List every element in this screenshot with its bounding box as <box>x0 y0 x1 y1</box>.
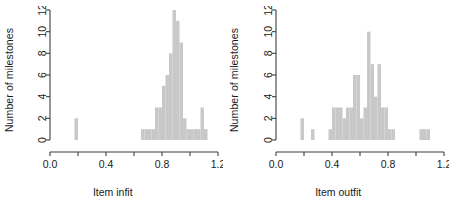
y-axis-tick-label: 0 <box>262 137 274 143</box>
histogram-bar <box>75 118 79 140</box>
histogram-bar <box>190 129 194 140</box>
histogram-bar <box>349 108 353 141</box>
x-axis-right: 0.00.40.81.2 <box>268 152 448 170</box>
y-axis-tick-label: 2 <box>262 115 274 121</box>
histogram-bar <box>197 129 201 140</box>
histogram-bar <box>339 108 343 141</box>
panel-item-infit: Number of milestones 0246810120.00.40.81… <box>0 0 226 214</box>
histogram-bar <box>145 129 149 140</box>
y-axis-right: 024681012 <box>262 6 276 143</box>
histogram-bar <box>391 129 395 140</box>
histogram-bar <box>356 75 360 140</box>
histogram-bar <box>187 129 191 140</box>
plot-svg-right: 0246810120.00.40.81.2 <box>244 6 449 181</box>
x-axis-tick-label: 1.2 <box>211 158 223 170</box>
y-axis-title-right-text: Number of milestones <box>229 28 241 132</box>
histogram-bar <box>342 118 346 140</box>
plot-area-right: 0246810120.00.40.81.2 <box>244 6 449 181</box>
histogram-bars-left <box>75 10 208 140</box>
y-axis-tick-label: 0 <box>36 137 48 143</box>
plot-svg-left: 0246810120.00.40.81.2 <box>18 6 223 181</box>
histogram-bar <box>176 21 180 140</box>
histogram-bar <box>152 129 156 140</box>
y-axis-title-left: Number of milestones <box>0 0 18 160</box>
y-axis-tick-label: 6 <box>262 72 274 78</box>
y-axis-tick-label: 4 <box>36 94 48 100</box>
histogram-bar <box>300 118 304 140</box>
y-axis-tick-label: 8 <box>262 50 274 56</box>
histogram-bar <box>381 108 385 141</box>
histogram-bar <box>426 129 430 140</box>
x-axis-tick-label: 0.0 <box>43 158 58 170</box>
panel-item-outfit: Number of milestones 0246810120.00.40.81… <box>226 0 451 214</box>
y-axis-left: 024681012 <box>36 6 50 143</box>
histogram-bar <box>374 97 378 140</box>
x-axis-title-left: Item infit <box>0 186 226 198</box>
histogram-bar <box>204 129 208 140</box>
plot-area-left: 0246810120.00.40.81.2 <box>18 6 223 181</box>
y-axis-tick-label: 6 <box>36 72 48 78</box>
histogram-bar <box>166 75 170 140</box>
histogram-bar <box>201 108 205 141</box>
x-axis-tick-label: 0.8 <box>155 158 170 170</box>
histogram-bar <box>360 118 364 140</box>
histogram-bar <box>367 32 371 140</box>
x-axis-tick-label: 0.0 <box>268 158 283 170</box>
histogram-bar <box>328 129 332 140</box>
histogram-bar <box>169 53 173 140</box>
histogram-figure: Number of milestones 0246810120.00.40.81… <box>0 0 451 214</box>
x-axis-tick-label: 1.2 <box>436 158 448 170</box>
y-axis-title-left-text: Number of milestones <box>3 28 15 132</box>
y-axis-tick-label: 8 <box>36 50 48 56</box>
histogram-bar <box>159 108 163 141</box>
histogram-bar <box>353 75 357 140</box>
histogram-bar <box>384 108 388 141</box>
x-axis-title-right: Item outfit <box>226 186 451 198</box>
histogram-bars-right <box>300 32 430 140</box>
x-axis-tick-label: 0.4 <box>99 158 114 170</box>
y-axis-tick-label: 10 <box>36 26 48 38</box>
histogram-bar <box>141 129 145 140</box>
x-axis-tick-label: 0.4 <box>324 158 339 170</box>
y-axis-tick-label: 4 <box>262 94 274 100</box>
histogram-bar <box>419 129 423 140</box>
histogram-bar <box>148 129 152 140</box>
histogram-bar <box>335 108 339 141</box>
histogram-bar <box>346 108 350 141</box>
histogram-bar <box>370 64 374 140</box>
histogram-bar <box>377 64 381 140</box>
x-axis-left: 0.00.40.81.2 <box>43 152 223 170</box>
y-axis-tick-label: 2 <box>36 115 48 121</box>
histogram-bar <box>423 129 427 140</box>
histogram-bar <box>162 86 166 140</box>
y-axis-tick-label: 12 <box>262 6 274 16</box>
histogram-bar <box>388 129 392 140</box>
histogram-bar <box>183 118 187 140</box>
histogram-bar <box>332 108 336 141</box>
histogram-bar <box>173 10 177 140</box>
y-axis-tick-label: 10 <box>262 26 274 38</box>
y-axis-tick-label: 12 <box>36 6 48 16</box>
histogram-bar <box>194 129 198 140</box>
x-axis-tick-label: 0.8 <box>380 158 395 170</box>
y-axis-title-right: Number of milestones <box>226 0 244 160</box>
histogram-bar <box>155 108 159 141</box>
histogram-bar <box>180 43 184 141</box>
histogram-bar <box>311 129 315 140</box>
histogram-bar <box>363 108 367 141</box>
